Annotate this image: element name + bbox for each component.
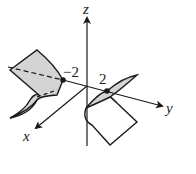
neg2-label: −2: [63, 64, 79, 80]
y-axis-label: y: [164, 100, 173, 116]
left-sheet: [8, 50, 63, 118]
diagram-canvas: z y x −2 2: [0, 0, 196, 174]
point-2: [104, 88, 110, 94]
right-sheet: [85, 75, 137, 145]
z-axis-label: z: [82, 1, 89, 17]
pos2-label: 2: [99, 71, 107, 87]
surface-diagram: z y x −2 2: [0, 0, 196, 174]
x-axis-label: x: [22, 128, 30, 144]
